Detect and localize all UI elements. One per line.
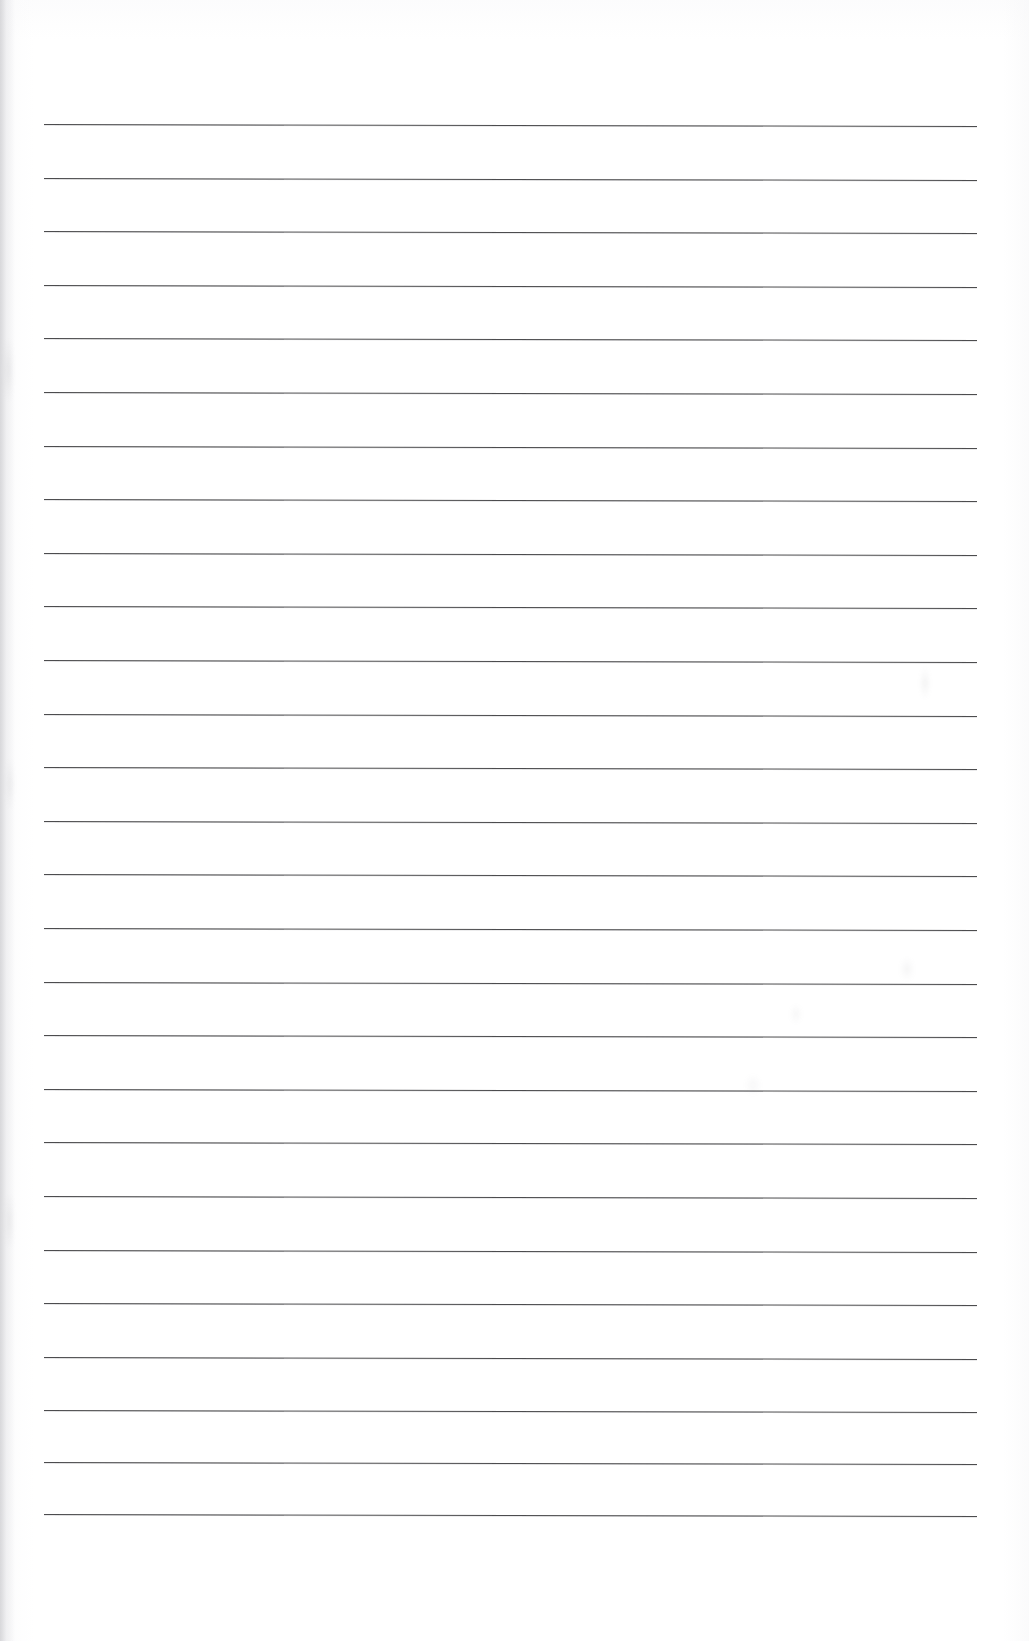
rule-line (44, 231, 977, 234)
rule-line (44, 1410, 977, 1413)
rule-line (44, 928, 977, 931)
rule-line (44, 178, 977, 181)
rule-line (44, 124, 977, 127)
rule-line (44, 1357, 977, 1360)
rule-line (44, 1462, 977, 1465)
rule-line (44, 982, 977, 985)
rule-line (44, 1196, 977, 1199)
rule-line (44, 660, 977, 663)
rule-line (44, 874, 977, 877)
rule-line (44, 1250, 977, 1253)
rule-line (44, 446, 977, 449)
rule-line (44, 392, 977, 395)
rule-line (44, 1303, 977, 1306)
rule-line (44, 821, 977, 824)
scanned-page: Blank lined notebook page (0, 0, 1029, 1641)
ruled-lines-layer (0, 0, 1029, 1641)
rule-line (44, 285, 977, 288)
rule-line (44, 1142, 977, 1145)
rule-line (44, 1089, 977, 1092)
rule-line (44, 553, 977, 556)
rule-line (44, 499, 977, 502)
rule-line (44, 1035, 977, 1038)
rule-line (44, 606, 977, 609)
rule-line (44, 1514, 977, 1517)
rule-line (44, 767, 977, 770)
rule-line (44, 714, 977, 717)
rule-line (44, 338, 977, 341)
